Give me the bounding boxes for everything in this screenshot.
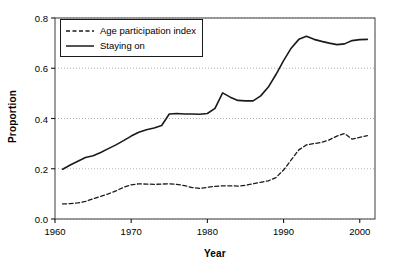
legend-swatch-solid-icon — [65, 41, 95, 51]
x-tick-label-4: 2000 — [349, 226, 370, 237]
x-axis-title: Year — [55, 248, 375, 259]
x-tick-label-0: 1960 — [44, 226, 65, 237]
x-tick-label-3: 1990 — [273, 226, 294, 237]
legend-label-0: Age participation index — [100, 26, 196, 36]
legend-swatch-dashed-icon — [65, 26, 95, 36]
data-series — [63, 36, 368, 204]
legend-item-1: Staying on — [65, 38, 196, 53]
x-tick-label-2: 1980 — [197, 226, 218, 237]
x-axis-title-text: Year — [204, 248, 226, 259]
legend-item-0: Age participation index — [65, 23, 196, 38]
x-tick-label-1: 1970 — [121, 226, 142, 237]
chart-legend: Age participation index Staying on — [60, 19, 203, 57]
chart-figure: Proportion 0.00.20.40.60.8 1960197019801… — [0, 0, 404, 271]
legend-label-1: Staying on — [100, 41, 145, 51]
